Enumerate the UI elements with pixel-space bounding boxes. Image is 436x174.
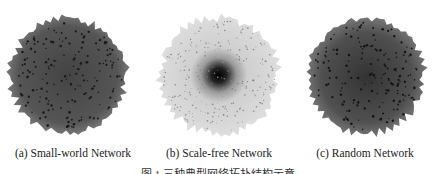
panel-label-b: (b) Scale-free Network — [146, 147, 292, 159]
panel-random: (c) Random Network — [292, 0, 436, 174]
scale-free-network-graph — [146, 12, 292, 144]
panel-scale-free: (b) Scale-free Network — [146, 0, 292, 174]
panel-label-a: (a) Small-world Network — [0, 147, 146, 159]
panel-small-world: (a) Small-world Network — [0, 0, 146, 174]
random-network-graph — [292, 12, 436, 144]
figure-caption: 图 1 三种典型网络拓扑结构示意 — [0, 166, 436, 174]
panel-label-c: (c) Random Network — [292, 147, 436, 159]
small-world-network-graph — [0, 12, 146, 144]
